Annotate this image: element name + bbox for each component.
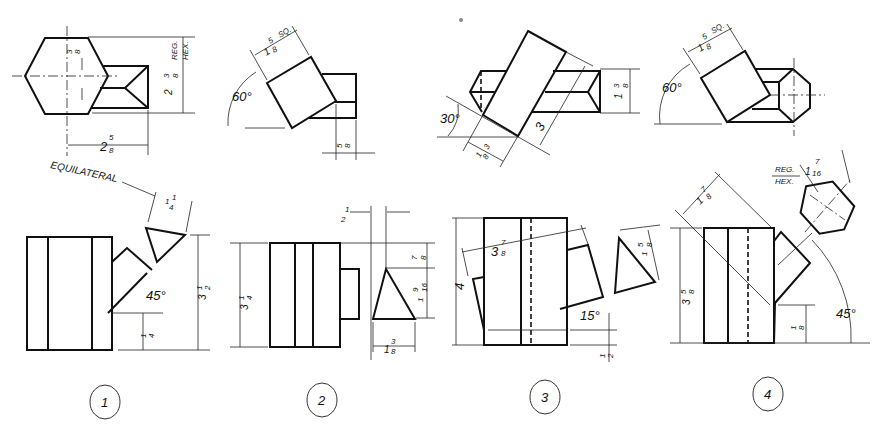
hex-label: HEX.	[181, 41, 190, 60]
dim-label: 3	[532, 119, 549, 133]
extension-line	[292, 26, 309, 55]
branch-prism	[108, 273, 147, 313]
dim-label: 4	[452, 283, 467, 290]
problem-3-top-view: 30° 3 1 3 8 1 3 8	[437, 18, 640, 167]
problem-2: 60° 1 5 8 SQ. 5 8	[228, 25, 435, 417]
dim-label: 8	[271, 44, 280, 54]
branch-prism-front	[340, 269, 359, 319]
stray-dot	[459, 18, 463, 22]
dim-label: 8	[705, 41, 714, 51]
sq-label: SQ.	[710, 21, 726, 36]
dimension-line	[540, 66, 585, 145]
dim-label: 3	[197, 294, 208, 300]
dim-label: 16	[420, 283, 429, 292]
hex-label: HEX.	[775, 177, 794, 186]
dim-label: 1	[172, 193, 176, 202]
problem-number: 4	[764, 387, 771, 402]
rect-prism-body	[704, 228, 774, 343]
problem-4-front-view: 1 7 8 REG. HEX. 1 7 16 45° 3 5 8 1 8	[670, 150, 870, 343]
dim-label: 8	[419, 255, 428, 260]
dim-label: 8	[704, 192, 714, 202]
dim-label: 2	[203, 285, 212, 291]
leader-line	[122, 182, 155, 196]
extension-line	[148, 192, 156, 222]
dim-label: 3	[162, 73, 171, 78]
problem-2-front-view: 1 2 3 1 4 7 8 1 9 16 1 3 8	[230, 205, 435, 360]
angle-label: 45°	[836, 306, 856, 321]
dim-label: 5	[636, 242, 645, 247]
dim-label: 1	[613, 93, 624, 99]
branch-prism-left	[473, 277, 484, 330]
extension-line	[683, 48, 700, 74]
dim-label: 8	[687, 289, 696, 294]
dim-label: 4	[169, 203, 174, 212]
dim-label: 1	[345, 205, 349, 214]
dim-label: 2	[340, 215, 346, 224]
problem-1: 2 3 8 REG. HEX. 3 8 2 5 8 EQUILATERAL 1 …	[12, 26, 212, 419]
problem-1-top-view: 2 3 8 REG. HEX. 3 8 2 5 8	[12, 26, 195, 156]
dim-label: 4	[147, 333, 156, 338]
problem-3-front-view: 4 3 7 8 1 5 8 15° 1 2	[452, 218, 660, 362]
dim-label: 8	[645, 242, 654, 247]
dimension-line	[648, 230, 659, 280]
square-prism	[701, 51, 770, 122]
dim-label: 8	[73, 49, 82, 54]
problem-number: 1	[101, 395, 108, 410]
extension-line	[566, 52, 593, 66]
dim-label: 8	[343, 143, 352, 148]
dim-label: 3	[391, 337, 396, 346]
dim-label: 8	[171, 73, 180, 78]
prism-edge	[779, 109, 793, 122]
rect-prism-body	[270, 243, 340, 347]
dim-label: 8	[501, 249, 506, 258]
dim-label: 7	[410, 255, 419, 260]
drawing-sheet: 2 3 8 REG. HEX. 3 8 2 5 8 EQUILATERAL 1 …	[0, 0, 882, 440]
extension-line	[463, 115, 483, 151]
angle-label: 30°	[440, 111, 460, 126]
triangle-end-view	[373, 269, 415, 319]
angle-label: 15°	[580, 308, 600, 323]
dimension-line	[683, 174, 720, 214]
prism-edge	[779, 69, 793, 82]
dim-label: 3	[612, 83, 621, 88]
problem-1-front-view: EQUILATERAL 1 1 4 45° 3 1 2 1 4	[27, 159, 212, 350]
extension-line	[620, 225, 660, 230]
angle-label: 60°	[232, 89, 252, 104]
dim-label: 9	[411, 287, 420, 292]
angle-arc	[812, 240, 851, 343]
problem-3: 30° 3 1 3 8 1 3 8 4	[437, 18, 660, 414]
rect-prism-rotated	[483, 31, 566, 136]
dim-label: 8	[621, 83, 630, 88]
dim-label: 2	[99, 139, 108, 154]
dim-label: 3	[491, 244, 499, 259]
problem-number: 3	[541, 390, 549, 405]
dim-label: 7	[815, 157, 820, 166]
extension-line	[727, 24, 743, 50]
dim-label: 1	[640, 252, 649, 256]
dim-label: 2	[606, 353, 615, 359]
dim-label: 1	[416, 298, 425, 302]
dim-label: 4	[245, 295, 254, 300]
dim-label: 2	[163, 89, 174, 96]
dim-label: 7	[501, 238, 506, 247]
problem-4-top-view: 60° 1 5 8 SQ.	[654, 21, 825, 136]
equilateral-note: EQUILATERAL	[50, 159, 119, 184]
extension-line	[462, 248, 468, 276]
extension-line	[842, 150, 850, 183]
problem-number: 2	[317, 393, 326, 408]
dim-label: 5	[701, 31, 710, 41]
problem-4: 60° 1 5 8 SQ. 1 7 8 REG. HEX.	[654, 21, 870, 411]
branch-prism	[112, 248, 152, 270]
extension-line	[581, 225, 588, 244]
hex-prism-body	[27, 237, 112, 350]
angle-label: 60°	[662, 80, 682, 95]
prism-edge	[588, 92, 600, 112]
reg-label: REG.	[170, 40, 179, 60]
dim-label: 8	[797, 325, 806, 330]
dim-label: 1	[384, 344, 390, 355]
dim-label: 8	[391, 347, 396, 356]
reg-label: REG.	[775, 165, 795, 174]
dim-label: 5	[109, 133, 114, 142]
dim-label: 3	[239, 304, 250, 310]
dim-label: 3	[482, 142, 492, 151]
